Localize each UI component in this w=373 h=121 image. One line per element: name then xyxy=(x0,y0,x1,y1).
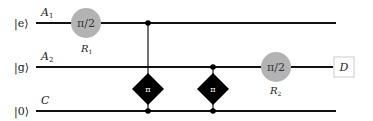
phase-gate-1-text: π xyxy=(145,85,150,94)
state-g: |g⟩ xyxy=(14,61,29,75)
r2-label: R2 xyxy=(269,85,282,97)
r2-angle: π/2 xyxy=(267,61,285,74)
wire-label-a2: A2 xyxy=(40,50,53,64)
circuit-diagram: |e⟩ |g⟩ |0⟩ A1 A2 C π/2 R1 π π π/2 R2 D xyxy=(0,0,373,121)
state-e: |e⟩ xyxy=(14,17,29,31)
wire-label-a1: A1 xyxy=(40,6,53,20)
target-dot-1 xyxy=(145,108,151,114)
control-dot-2 xyxy=(210,64,216,70)
target-dot-2 xyxy=(210,108,216,114)
r1-label: R1 xyxy=(80,43,92,55)
detector-label: D xyxy=(339,61,349,74)
state-0: |0⟩ xyxy=(14,105,29,119)
r1-angle: π/2 xyxy=(77,17,95,30)
control-dot-1 xyxy=(145,20,151,26)
phase-gate-2-text: π xyxy=(210,85,215,94)
wire-label-c: C xyxy=(41,94,50,107)
